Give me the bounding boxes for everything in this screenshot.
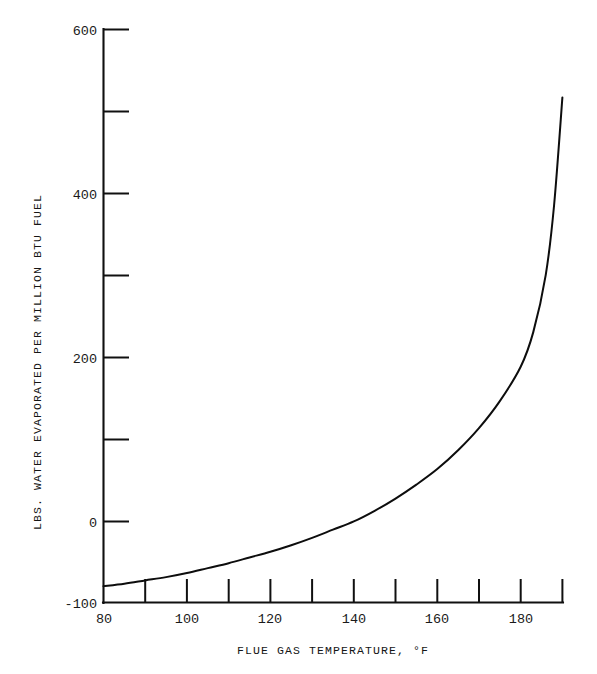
y-tick-labels: 600 400 200 0 -100 — [65, 24, 97, 612]
x-tick-labels: 80 100 120 140 160 180 — [96, 612, 533, 627]
y-axis-title: LBS. WATER EVAPORATED PER MILLION BTU FU… — [31, 194, 44, 530]
y-tick-label-minus100: -100 — [65, 597, 97, 612]
y-tick-label-400: 400 — [73, 188, 97, 203]
y-tick-label-200: 200 — [73, 352, 97, 367]
chart-figure: 600 400 200 0 -100 80 100 120 140 160 18… — [0, 0, 597, 674]
y-tick-label-0: 0 — [89, 516, 97, 531]
data-curve — [104, 97, 563, 586]
x-tick-label-180: 180 — [509, 612, 533, 627]
x-tick-marks — [145, 579, 562, 602]
y-tick-label-600: 600 — [73, 24, 97, 39]
x-tick-label-160: 160 — [425, 612, 449, 627]
x-tick-label-120: 120 — [258, 612, 282, 627]
y-tick-marks — [104, 30, 129, 522]
chart-canvas: 600 400 200 0 -100 80 100 120 140 160 18… — [0, 0, 597, 674]
x-axis-title: FLUE GAS TEMPERATURE, °F — [237, 644, 429, 657]
x-tick-label-100: 100 — [175, 612, 199, 627]
x-tick-label-80: 80 — [96, 612, 112, 627]
x-tick-label-140: 140 — [342, 612, 366, 627]
axes-group — [103, 29, 563, 603]
